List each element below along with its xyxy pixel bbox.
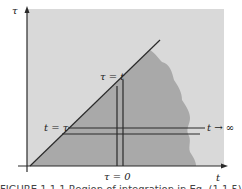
horizontal-axis-label: t [216, 172, 221, 183]
vertical-axis-label: τ [12, 5, 18, 16]
figure-caption: FIGURE 1.1.1 Region of integration in Eq… [0, 184, 242, 189]
horizontal-axis-arrow-icon [221, 164, 228, 169]
integration-region-diagram: τ t τ = t t = τ τ = 0 t → ∞ FIGURE 1.1.1… [0, 0, 242, 189]
diagonal-left-label: t = τ [44, 122, 69, 133]
vertical-strip-label: τ = 0 [104, 171, 131, 182]
horizontal-strip-label: t → ∞ [207, 122, 234, 133]
diagonal-top-label: τ = t [100, 71, 125, 82]
